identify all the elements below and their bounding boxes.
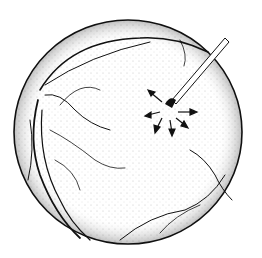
retina-disc xyxy=(14,20,242,244)
illustration xyxy=(0,0,262,258)
retina-illustration xyxy=(0,0,262,258)
